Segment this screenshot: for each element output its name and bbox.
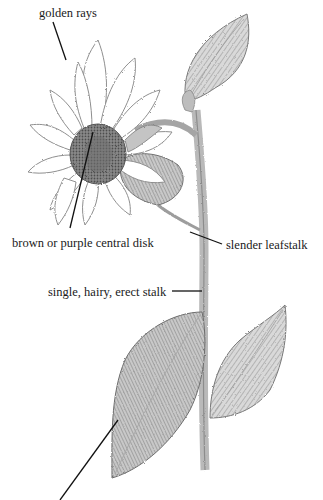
lower-left-leaf — [112, 312, 205, 478]
label-leafstalk: slender leafstalk — [226, 238, 308, 252]
label-central-disk: brown or purple central disk — [12, 236, 154, 250]
label-golden-rays: golden rays — [39, 6, 97, 20]
leader-golden-rays — [53, 22, 66, 60]
lower-right-leaf — [210, 305, 286, 418]
label-stalk: single, hairy, erect stalk — [48, 285, 166, 299]
sunflower-diagram: golden rays brown or purple central disk… — [0, 0, 323, 500]
top-bud-leaf — [182, 14, 249, 112]
leader-leaf — [60, 420, 118, 500]
